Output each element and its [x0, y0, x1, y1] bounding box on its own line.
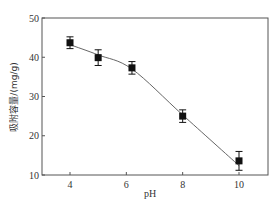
square-marker: [67, 39, 74, 46]
data-points: [67, 37, 243, 170]
fit-line: [70, 45, 239, 166]
square-marker: [95, 54, 102, 61]
data-point: [67, 37, 74, 49]
y-tick-label: 10: [29, 170, 39, 181]
square-marker: [128, 64, 135, 71]
axes-box: [42, 18, 268, 175]
square-marker: [236, 157, 243, 164]
y-tick-label: 30: [29, 91, 39, 102]
y-tick-label: 40: [29, 52, 39, 63]
x-axis-label: pH: [144, 188, 156, 199]
chart: 1020304050 46810 pH 吸附容量/(mg/g): [0, 0, 278, 206]
y-tick-label: 20: [29, 130, 39, 141]
data-point: [179, 110, 186, 123]
y-axis-label: 吸附容量/(mg/g): [8, 62, 19, 131]
square-marker: [179, 113, 186, 120]
plot-frame: [42, 18, 268, 175]
data-point: [236, 151, 243, 170]
x-tick-label: 6: [124, 179, 129, 190]
y-axis-ticks: 1020304050: [29, 13, 45, 181]
x-tick-label: 8: [180, 179, 185, 190]
data-point: [128, 62, 135, 75]
x-tick-label: 10: [234, 179, 244, 190]
x-tick-label: 4: [68, 179, 73, 190]
data-point: [95, 50, 102, 66]
y-tick-label: 50: [29, 13, 39, 24]
fit-curve: [70, 45, 239, 166]
